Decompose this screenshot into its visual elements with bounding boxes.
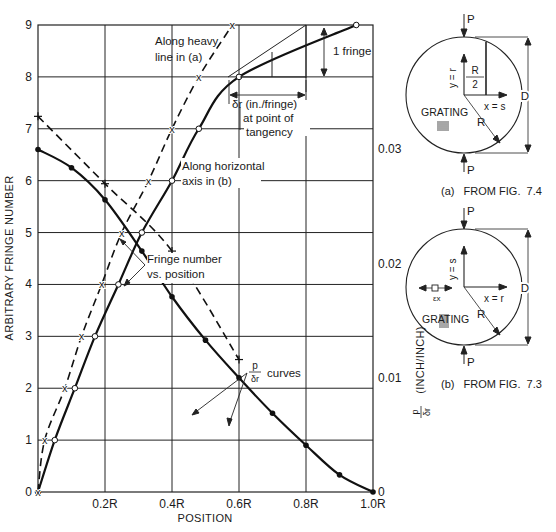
svg-text:P: P xyxy=(467,13,475,25)
svg-text:δr: δr xyxy=(251,374,259,384)
svg-text:Along horizontal: Along horizontal xyxy=(182,160,264,172)
x-axis-ticks: 0.2R0.4R0.6R0.8R1.0R xyxy=(92,497,386,511)
svg-text:x: x xyxy=(230,19,236,31)
figure-a-labels: P P y = r R 2 x = s R D GRATING (a) FROM… xyxy=(421,13,542,197)
svg-text:0.4R: 0.4R xyxy=(159,497,185,511)
fringe-chart: 0123456789 00.010.020.03 0.2R0.4R0.6R0.8… xyxy=(0,0,556,532)
svg-text:x = r: x = r xyxy=(484,293,504,304)
svg-text:at point of: at point of xyxy=(243,112,294,124)
svg-text:x: x xyxy=(42,434,48,446)
svg-text:curves: curves xyxy=(267,367,301,379)
svg-text:8: 8 xyxy=(25,70,32,84)
svg-text:0: 0 xyxy=(25,485,32,499)
svg-text:δr: δr xyxy=(422,408,432,416)
svg-text:p: p xyxy=(410,409,420,414)
svg-text:5: 5 xyxy=(25,226,32,240)
svg-text:2: 2 xyxy=(472,79,478,90)
svg-text:7: 7 xyxy=(25,122,32,136)
svg-text:3: 3 xyxy=(25,329,32,343)
svg-text:y = r: y = r xyxy=(447,68,458,88)
figure-a-disk-diagram xyxy=(406,14,531,172)
svg-text:y = s: y = s xyxy=(447,259,458,280)
svg-text:R: R xyxy=(471,65,478,76)
svg-text:x: x xyxy=(196,71,202,83)
y2-axis-fraction: p δr xyxy=(410,406,432,418)
svg-text:4: 4 xyxy=(25,277,32,291)
svg-text:x: x xyxy=(146,175,152,187)
svg-text:x: x xyxy=(119,227,125,239)
svg-text:P: P xyxy=(467,164,475,176)
svg-text:0.2R: 0.2R xyxy=(92,497,118,511)
annotation-delta-r: δr (in./fringe) at point of tangency xyxy=(232,98,310,138)
svg-text:0.03: 0.03 xyxy=(378,142,402,156)
svg-text:vs. position: vs. position xyxy=(147,268,205,280)
svg-text:x = s: x = s xyxy=(484,101,505,112)
y-axis-ticks: 0123456789 xyxy=(25,18,32,499)
series-2 xyxy=(35,147,376,495)
svg-text:δr (in./fringe): δr (in./fringe) xyxy=(232,98,297,110)
svg-text:x: x xyxy=(99,278,105,290)
annotation-one-fringe: 1 fringe xyxy=(333,45,371,57)
svg-text:2: 2 xyxy=(25,381,32,395)
svg-text:0.01: 0.01 xyxy=(378,371,402,385)
svg-text:εx: εx xyxy=(433,294,441,303)
svg-text:x: x xyxy=(169,123,175,135)
svg-text:6: 6 xyxy=(25,174,32,188)
svg-text:1: 1 xyxy=(25,433,32,447)
svg-text:GRATING: GRATING xyxy=(421,106,468,118)
svg-text:(b) FROM FIG. 7.3: (b) FROM FIG. 7.3 xyxy=(441,378,542,390)
svg-text:9: 9 xyxy=(25,18,32,32)
svg-text:GRATING: GRATING xyxy=(422,313,469,325)
annotation-p-delta-curves: p δr curves xyxy=(192,360,301,426)
figure-b-labels: P P y = s εx x = r R D GRATING (b) FROM … xyxy=(422,205,542,390)
svg-text:0.8R: 0.8R xyxy=(293,497,319,511)
svg-text:axis in (b): axis in (b) xyxy=(182,175,232,187)
svg-text:0.6R: 0.6R xyxy=(226,497,252,511)
x-axis-title: POSITION xyxy=(178,512,233,524)
svg-text:line in (a): line in (a) xyxy=(155,51,202,63)
svg-text:D: D xyxy=(521,90,529,102)
annotation-horizontal-axis-b: Along horizontal axis in (b) xyxy=(181,158,264,188)
svg-text:R: R xyxy=(477,116,485,128)
y-axis-title: ARBITRARY FRINGE NUMBER xyxy=(3,176,15,341)
svg-text:1.0R: 1.0R xyxy=(360,497,386,511)
svg-text:x: x xyxy=(62,382,68,394)
y2-axis-ticks: 00.010.020.03 xyxy=(378,142,402,499)
svg-text:x: x xyxy=(79,330,85,342)
svg-text:1 fringe: 1 fringe xyxy=(333,45,371,57)
annotation-heavy-line-a: Along heavy line in (a) xyxy=(155,35,219,63)
svg-text:R: R xyxy=(477,308,485,320)
svg-text:p: p xyxy=(252,360,258,371)
svg-text:P: P xyxy=(467,356,475,368)
svg-text:Fringe number: Fringe number xyxy=(147,253,222,265)
svg-text:tangency: tangency xyxy=(246,126,293,138)
svg-text:0.02: 0.02 xyxy=(378,257,402,271)
svg-text:P: P xyxy=(467,205,475,217)
svg-text:(a) FROM FIG. 7.4: (a) FROM FIG. 7.4 xyxy=(441,185,542,197)
svg-text:Along heavy: Along heavy xyxy=(155,35,219,47)
svg-text:x: x xyxy=(35,486,41,498)
y2-axis-title: (INCH/INCH) xyxy=(414,326,426,393)
svg-text:D: D xyxy=(521,282,529,294)
